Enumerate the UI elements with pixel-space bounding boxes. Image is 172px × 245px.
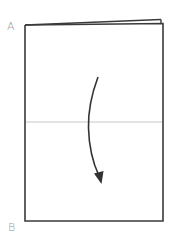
- fold-arrow-icon: [88, 77, 103, 184]
- corner-label-a: A: [7, 21, 15, 32]
- corner-label-b: B: [8, 222, 15, 233]
- fold-diagram: A B: [0, 0, 172, 245]
- fold-diagram-svg: [0, 0, 172, 245]
